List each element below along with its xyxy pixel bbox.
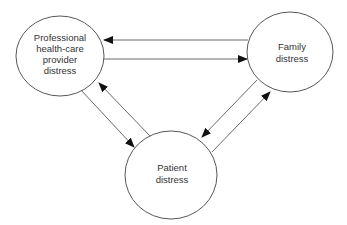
node-provider-line-4: distress: [44, 65, 77, 76]
edge-patient-to-family: [212, 92, 270, 152]
node-provider-line-3: provider: [43, 54, 77, 65]
node-patient-line-1: Patient: [157, 162, 187, 173]
node-patient: Patient distress: [125, 131, 217, 219]
node-provider-line-2: health-care: [36, 43, 84, 54]
node-provider: Professional health-care provider distre…: [16, 16, 104, 96]
node-provider-line-1: Professional: [34, 32, 86, 43]
node-family-line-2: distress: [276, 53, 309, 64]
node-patient-line-2: distress: [156, 174, 189, 185]
node-family: Family distress: [247, 12, 333, 92]
node-family-line-1: Family: [278, 41, 306, 52]
diagram-canvas: Professional health-care provider distre…: [0, 0, 347, 225]
edge-patient-to-provider: [99, 83, 150, 136]
edge-provider-to-patient: [80, 89, 134, 147]
edge-family-to-patient: [202, 80, 257, 137]
